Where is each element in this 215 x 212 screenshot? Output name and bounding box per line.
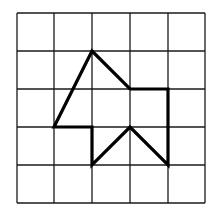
- grid-diagram: [0, 0, 215, 212]
- square-grid: [17, 13, 205, 203]
- polygon-figure: [54, 51, 168, 165]
